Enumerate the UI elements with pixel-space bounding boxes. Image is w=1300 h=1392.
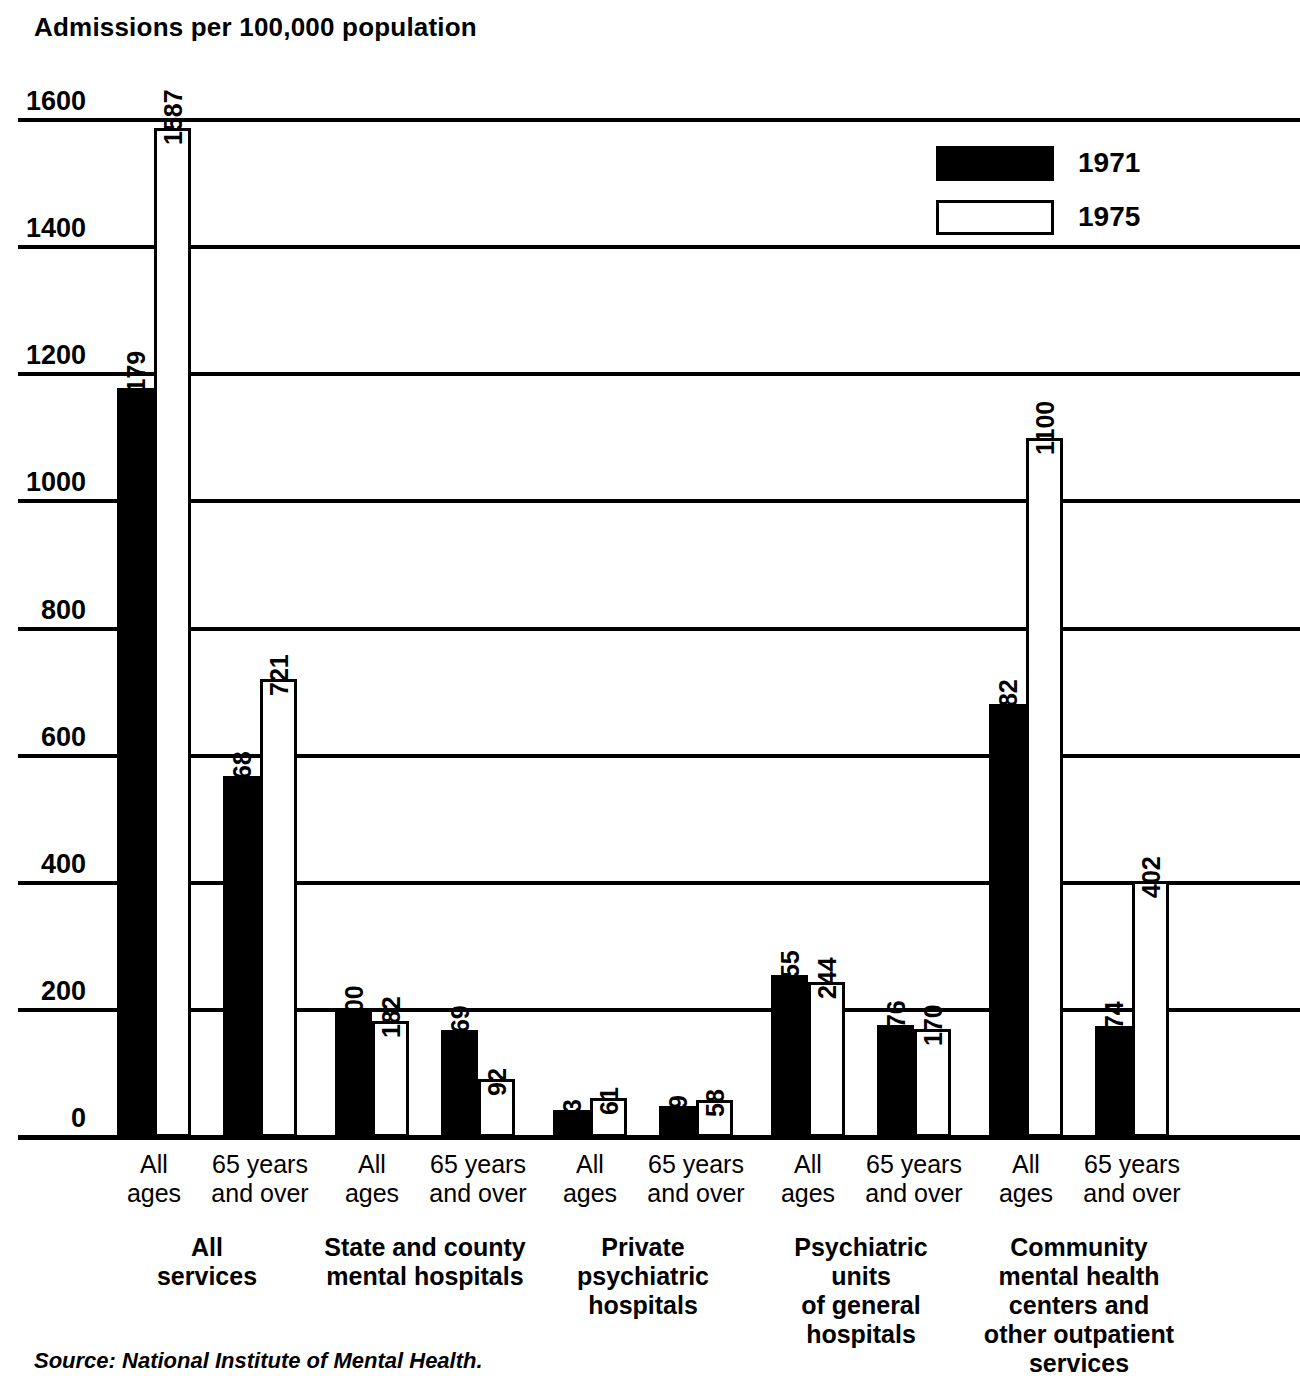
- bar-1975-8[interactable]: [1026, 438, 1063, 1137]
- gridline-1200: [18, 372, 1300, 376]
- legend-item-1975[interactable]: 1975: [936, 194, 1140, 240]
- bar-value-label-1971-9: 174: [1102, 1002, 1127, 1044]
- bar-value-label-1975-8: 1100: [1033, 401, 1058, 455]
- bar-1971-8[interactable]: [989, 704, 1026, 1137]
- bar-value-label-1975-2: 182: [379, 997, 404, 1039]
- bar-value-label-1971-2: 200: [342, 985, 367, 1027]
- bar-value-label-1971-8: 682: [996, 679, 1021, 721]
- gridline-1000: [18, 499, 1300, 503]
- bar-value-label-1971-6: 255: [778, 950, 803, 992]
- bar-1975-2[interactable]: [372, 1021, 409, 1137]
- y-axis-tick-1600: 1600: [0, 86, 86, 117]
- legend-label-1975: 1975: [1078, 201, 1140, 233]
- y-axis-tick-200: 200: [0, 976, 86, 1007]
- y-axis-tick-600: 600: [0, 722, 86, 753]
- bar-1975-6[interactable]: [808, 982, 845, 1137]
- legend-swatch-1971: [936, 146, 1054, 181]
- gridline-800: [18, 627, 1300, 631]
- bar-1971-2[interactable]: [335, 1010, 372, 1137]
- legend-label-1971: 1971: [1078, 147, 1140, 179]
- x-axis-tick-9: 65 years and over: [1062, 1150, 1202, 1207]
- x-axis-group-label-0: All services: [82, 1233, 332, 1291]
- gridline-400: [18, 881, 1300, 885]
- chart-legend: 1971 1975: [936, 140, 1140, 248]
- x-axis-group-label-1: State and county mental hospitals: [300, 1233, 550, 1291]
- gridline-600: [18, 754, 1300, 758]
- y-axis-tick-1200: 1200: [0, 340, 86, 371]
- bar-value-label-1975-7: 170: [921, 1004, 946, 1046]
- bar-value-label-1971-0: 1179: [124, 350, 149, 404]
- source-note: Source: National Institute of Mental Hea…: [34, 1348, 483, 1374]
- bar-1971-1[interactable]: [223, 776, 260, 1137]
- gridline-1600: [18, 118, 1300, 122]
- bar-1975-9[interactable]: [1132, 881, 1169, 1137]
- bar-value-label-1975-6: 244: [815, 957, 840, 999]
- bar-value-label-1975-4: 61: [597, 1087, 622, 1115]
- y-axis-tick-800: 800: [0, 595, 86, 626]
- bar-value-label-1971-3: 169: [448, 1005, 473, 1047]
- bar-value-label-1975-1: 721: [267, 654, 292, 696]
- bar-value-label-1971-5: 49: [666, 1095, 691, 1123]
- y-axis-tick-1000: 1000: [0, 467, 86, 498]
- y-axis-tick-1400: 1400: [0, 213, 86, 244]
- bar-value-label-1971-7: 176: [884, 1000, 909, 1042]
- bar-value-label-1975-5: 58: [703, 1089, 728, 1117]
- y-axis-tick-0: 0: [0, 1103, 86, 1134]
- bar-value-label-1971-1: 568: [230, 751, 255, 793]
- bar-value-label-1971-4: 43: [560, 1099, 585, 1127]
- bar-1971-0[interactable]: [117, 388, 154, 1137]
- bar-1975-1[interactable]: [260, 679, 297, 1137]
- y-axis-tick-400: 400: [0, 849, 86, 880]
- legend-item-1971[interactable]: 1971: [936, 140, 1140, 186]
- x-axis-group-label-2: Private psychiatric hospitals: [518, 1233, 768, 1320]
- x-axis-group-label-4: Community mental health centers and othe…: [954, 1233, 1204, 1378]
- bar-value-label-1975-0: 1587: [161, 90, 186, 146]
- bar-value-label-1975-9: 402: [1139, 857, 1164, 899]
- bar-1975-0[interactable]: [154, 128, 191, 1137]
- bar-1971-6[interactable]: [771, 975, 808, 1137]
- x-axis-group-label-3: Psychiatric units of general hospitals: [736, 1233, 986, 1349]
- legend-swatch-1975: [936, 200, 1054, 235]
- bar-value-label-1975-3: 92: [485, 1068, 510, 1096]
